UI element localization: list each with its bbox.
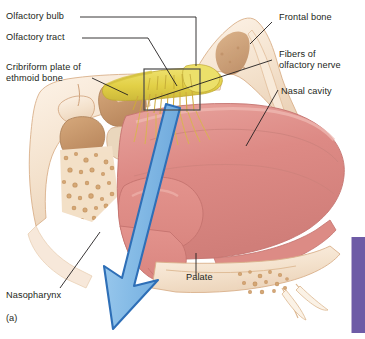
label-olfactory-nerve-line1: Fibers of [279,49,316,60]
label-frontal-bone: Frontal bone [279,12,332,23]
label-olfactory-bulb: Olfactory bulb [6,11,64,22]
olfactory-anatomy-figure: Olfactory bulb Olfactory tract Cribrifor… [0,0,365,339]
label-nasal-cavity: Nasal cavity [281,86,332,97]
leader-olfactory-bulb [80,17,196,66]
label-palate: Palate [186,272,213,283]
label-cribriform-plate-line2: ethmoid bone [6,73,63,84]
figure-caption: (a) [6,313,17,323]
label-cribriform-plate-line1: Cribriform plate of [6,62,81,73]
label-olfactory-tract: Olfactory tract [6,32,65,43]
label-nasopharynx: Nasopharynx [6,290,61,301]
label-olfactory-nerve-line2: olfactory nerve [279,60,341,71]
page-edge-color-bar [351,237,365,333]
